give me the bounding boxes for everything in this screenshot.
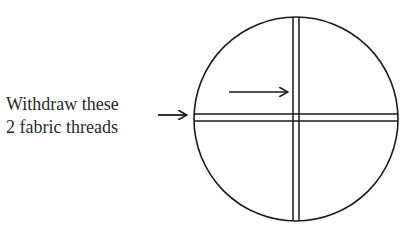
thread-diagram (0, 0, 409, 234)
vertical-threads (293, 17, 299, 221)
horizontal-threads (194, 114, 398, 121)
fabric-circle (194, 17, 398, 221)
